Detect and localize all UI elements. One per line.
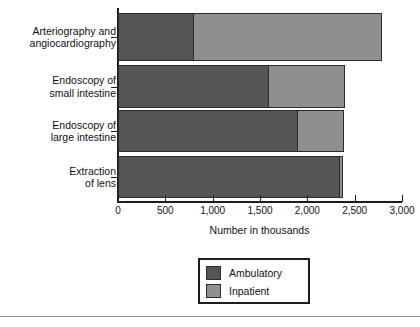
category-tick	[111, 37, 118, 38]
bar-segment-inpatient	[193, 13, 382, 61]
x-axis-tick-label: 500	[157, 205, 174, 216]
x-axis-tick	[165, 195, 166, 202]
x-axis-tick	[402, 195, 403, 202]
bar-row	[118, 13, 382, 61]
x-axis-tick	[213, 195, 214, 202]
legend-label: Ambulatory	[229, 267, 282, 279]
bottom-divider	[0, 316, 420, 317]
legend-swatch	[206, 284, 221, 298]
x-axis-title: Number in thousands	[117, 224, 402, 236]
chart-legend: AmbulatoryInpatient	[198, 258, 310, 304]
legend-swatch	[206, 266, 221, 280]
category-tick	[111, 131, 118, 132]
bar-segment-inpatient	[268, 65, 346, 108]
bar-segment-ambulatory	[118, 13, 194, 61]
bar-segment-inpatient	[339, 156, 344, 198]
bar-segment-ambulatory	[118, 65, 269, 108]
category-label: Endoscopy of large intestine	[51, 119, 116, 144]
x-axis-tick	[118, 195, 119, 202]
bar-segment-ambulatory	[118, 156, 340, 198]
stacked-bar-chart: Arteriography and angiocardiographyEndos…	[0, 0, 420, 250]
bar-segment-inpatient	[297, 110, 344, 152]
x-axis-tick-label: 2,500	[342, 205, 367, 216]
x-axis-tick	[355, 195, 356, 202]
category-label: Arteriography and angiocardiography	[30, 25, 116, 50]
bar-row	[118, 156, 343, 198]
legend-label: Inpatient	[229, 285, 269, 297]
x-axis-tick-label: 0	[115, 205, 121, 216]
legend-item: Ambulatory	[206, 264, 308, 282]
chart-page: Arteriography and angiocardiographyEndos…	[0, 0, 420, 327]
x-axis-tick-label: 1,000	[200, 205, 225, 216]
category-tick	[111, 87, 118, 88]
category-label: Endoscopy of small intestine	[49, 74, 116, 99]
x-axis-tick-label: 3,000	[389, 205, 414, 216]
x-axis-tick-label: 2,000	[295, 205, 320, 216]
bar-row	[118, 65, 345, 108]
category-label: Extraction of lens	[69, 165, 116, 190]
bar-row	[118, 110, 344, 152]
x-axis-tick	[307, 195, 308, 202]
bar-segment-ambulatory	[118, 110, 298, 152]
legend-item: Inpatient	[206, 282, 308, 300]
category-tick	[111, 177, 118, 178]
x-axis-tick-label: 1,500	[247, 205, 272, 216]
x-axis-tick	[260, 195, 261, 202]
